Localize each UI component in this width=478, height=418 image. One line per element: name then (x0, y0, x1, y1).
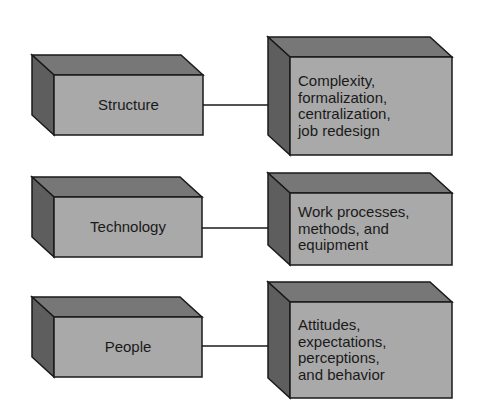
source-text-people: People (105, 339, 152, 356)
target-label-people: Attitudes, expectations, perceptions, an… (290, 302, 452, 398)
target-text-people: Attitudes, expectations, perceptions, an… (298, 317, 386, 383)
source-label-people: People (54, 317, 202, 377)
source-text-structure: Structure (98, 97, 159, 114)
source-text-technology: Technology (90, 219, 166, 236)
target-label-structure: Complexity, formalization, centralizatio… (290, 57, 452, 155)
source-label-structure: Structure (54, 75, 203, 135)
target-text-technology: Work processes, methods, and equipment (298, 204, 409, 254)
target-label-technology: Work processes, methods, and equipment (290, 193, 452, 265)
source-label-technology: Technology (54, 197, 202, 257)
target-text-structure: Complexity, formalization, centralizatio… (298, 73, 391, 139)
